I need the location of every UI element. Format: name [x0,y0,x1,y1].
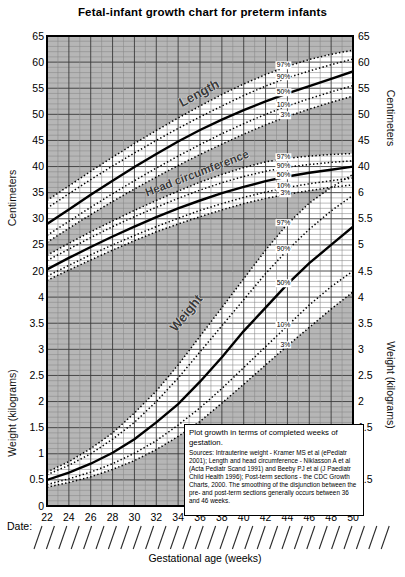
y-tick-left-cm-25: 25 [32,238,44,250]
left-kilograms-axis-label: Weight (kilograms) [6,369,18,456]
y-tick-right-kg-4: 4 [358,291,364,303]
x-tick-week-30: 30 [129,511,141,523]
y-tick-right-kg-4.5: 4.5 [358,265,373,277]
y-tick-left-cm-20: 20 [32,265,44,277]
percentile-label-head-circumference-p50: 50% [276,172,292,179]
y-tick-left-cm-65: 65 [32,30,44,42]
percentile-label-length-p50: 50% [276,89,292,96]
x-tick-week-34: 34 [172,511,184,523]
y-tick-left-kg-4: 4 [38,291,44,303]
y-tick-right-kg-3: 3 [358,343,364,355]
y-tick-left-kg-2.5: 2.5 [29,369,44,381]
y-tick-left-cm-45: 45 [32,134,44,146]
note-heading: Plot growth in terms of completed weeks … [189,428,359,447]
x-tick-week-22: 22 [41,511,53,523]
percentile-label-weight-p50: 50% [276,279,292,286]
growth-chart-page: Fetal-infant growth chart for preterm in… [0,0,405,577]
y-tick-right-kg-5: 5 [358,238,364,250]
note-box: Plot growth in terms of completed weeks … [184,424,364,516]
x-tick-week-28: 28 [107,511,119,523]
y-tick-right-cm-50: 50 [358,108,370,120]
percentile-label-weight-p10: 10% [276,321,292,328]
y-tick-right-cm-45: 45 [358,134,370,146]
y-tick-left-cm-50: 50 [32,108,44,120]
y-tick-right-kg-5.5: 5.5 [358,212,373,224]
y-tick-left-kg-0: 0 [38,500,44,512]
y-tick-right-cm-60: 60 [358,56,370,68]
y-tick-left-cm-40: 40 [32,160,44,172]
y-tick-right-kg-3.5: 3.5 [358,317,373,329]
y-tick-left-cm-60: 60 [32,56,44,68]
y-tick-left-kg-0.5: 0.5 [29,473,44,485]
right-kilograms-axis-label: Weight (kilograms) [385,341,397,428]
note-sources-text: Sources: Intrauterine weight - Kramer MS… [189,449,359,504]
y-tick-right-kg-6: 6 [358,186,364,198]
y-tick-left-kg-1: 1 [38,447,44,459]
percentile-label-weight-p90: 90% [276,245,292,252]
y-tick-left-kg-3: 3 [38,343,44,355]
y-tick-left-cm-30: 30 [32,212,44,224]
percentile-label-head-circumference-p90: 90% [276,162,292,169]
percentile-label-length-p3: 3% [280,112,292,119]
y-tick-right-cm-40: 40 [358,160,370,172]
y-tick-left-kg-1.5: 1.5 [29,421,44,433]
percentile-label-weight-p3: 3% [280,341,292,348]
y-tick-left-cm-55: 55 [32,82,44,94]
percentile-label-weight-p97: 97% [276,219,292,226]
right-centimeters-axis-label: Centimeters [385,90,397,147]
y-tick-left-kg-2: 2 [38,395,44,407]
x-tick-week-24: 24 [63,511,75,523]
y-tick-right-kg-2: 2 [358,395,364,407]
y-tick-left-kg-3.5: 3.5 [29,317,44,329]
x-tick-week-26: 26 [85,511,97,523]
left-centimeters-axis-label: Centimeters [6,170,18,227]
date-label: Date: [7,520,32,532]
percentile-label-length-p10: 10% [276,101,292,108]
y-tick-left-cm-35: 35 [32,186,44,198]
y-tick-right-cm-65: 65 [358,30,370,42]
x-tick-week-32: 32 [150,511,162,523]
percentile-label-length-p90: 90% [276,73,292,80]
percentile-label-head-circumference-p3: 3% [280,189,292,196]
y-tick-right-cm-55: 55 [358,82,370,94]
x-axis-title: Gestational age (weeks) [55,552,355,564]
y-tick-right-kg-2.5: 2.5 [358,369,373,381]
percentile-label-head-circumference-p97: 97% [276,153,292,160]
percentile-label-length-p97: 97% [276,62,292,69]
date-slash-row [34,526,389,549]
